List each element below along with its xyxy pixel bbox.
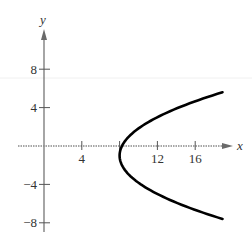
y-axis-arrow-icon xyxy=(41,29,47,40)
parabola-curve xyxy=(120,92,223,219)
y-axis-label: y xyxy=(38,12,46,27)
parabola-chart: y x 4121684−4−8 xyxy=(0,0,252,238)
x-tick-label: 12 xyxy=(151,151,164,166)
axis-ticks: 4121684−4−8 xyxy=(23,62,202,231)
y-tick-label: −8 xyxy=(23,215,37,230)
y-tick-label: 4 xyxy=(31,100,38,115)
y-tick-label: 8 xyxy=(31,62,38,77)
x-tick-label: 16 xyxy=(189,151,203,166)
x-axis-arrow-icon xyxy=(222,143,233,149)
x-tick-label: 4 xyxy=(79,151,86,166)
y-tick-label: −4 xyxy=(23,177,37,192)
x-axis-label: x xyxy=(236,138,243,153)
